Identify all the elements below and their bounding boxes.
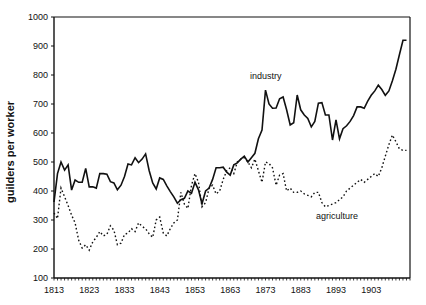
x-tick-label: 1833 <box>114 285 134 295</box>
y-ticks: 1002003004005006007008009001000 <box>28 12 54 283</box>
agriculture-series-line <box>54 135 407 250</box>
x-tick-label: 1813 <box>44 285 64 295</box>
x-tick-label: 1893 <box>326 285 346 295</box>
x-tick-label: 1883 <box>291 285 311 295</box>
plot-frame <box>54 17 410 278</box>
industry-series-line <box>54 40 407 204</box>
x-tick-label: 1823 <box>79 285 99 295</box>
x-tick-label: 1843 <box>150 285 170 295</box>
y-tick-label: 900 <box>33 41 48 51</box>
x-tick-label: 1873 <box>255 285 275 295</box>
y-tick-label: 100 <box>33 273 48 283</box>
y-axis-title: guilders per worker <box>4 100 16 203</box>
line-chart: 1002003004005006007008009001000 18131823… <box>0 0 426 305</box>
y-tick-label: 500 <box>33 157 48 167</box>
x-tick-label: 1863 <box>220 285 240 295</box>
x-ticks: 1813182318331843185318631873188318931903 <box>44 278 410 295</box>
x-tick-label: 1853 <box>185 285 205 295</box>
x-tick-label: 1903 <box>361 285 381 295</box>
y-tick-label: 200 <box>33 244 48 254</box>
y-tick-label: 300 <box>33 215 48 225</box>
y-tick-label: 800 <box>33 70 48 80</box>
y-tick-label: 700 <box>33 99 48 109</box>
y-tick-label: 600 <box>33 128 48 138</box>
industry-label: industry <box>250 71 282 81</box>
agriculture-label: agriculture <box>316 211 358 221</box>
y-tick-label: 400 <box>33 186 48 196</box>
y-tick-label: 1000 <box>28 12 48 22</box>
